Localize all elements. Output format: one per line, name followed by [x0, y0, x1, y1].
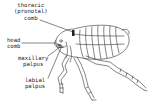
label-head-comb: head comb [7, 37, 20, 50]
label-line: comb [14, 15, 48, 21]
label-labial-palpus: labial palpus [25, 77, 45, 90]
label-maxillary-palpus: maxillary palpus [18, 55, 48, 68]
label-line: comb [7, 43, 20, 49]
leader-labial [48, 48, 61, 78]
leader-thoracic [40, 20, 73, 32]
label-line: palpus [25, 83, 45, 89]
label-line: palpus [18, 61, 48, 67]
label-line: (pronotal) [14, 8, 48, 14]
label-thoracic-comb: thoracic (pronotal) comb [14, 2, 48, 21]
flea-anatomy-diagram: thoracic (pronotal) comb head comb maxil… [0, 0, 149, 111]
